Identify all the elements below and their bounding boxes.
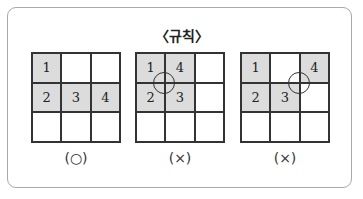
grid-cell	[195, 112, 224, 142]
grid-cell: 4	[300, 53, 329, 83]
grid-cell	[270, 112, 299, 142]
grid-cell	[61, 112, 90, 142]
grid-cell: 4	[91, 83, 120, 113]
grid-cell: 3	[61, 83, 90, 113]
grid-cell	[300, 83, 329, 113]
grid-cell	[195, 53, 224, 83]
grid-cell: 1	[136, 53, 165, 83]
verdict-label-1: (○)	[31, 150, 121, 166]
example-grid-1: 1 2 3 4	[31, 52, 121, 143]
grid-cell: 4	[165, 53, 194, 83]
grid-cell	[165, 112, 194, 142]
verdict-label-3: (×)	[240, 150, 330, 166]
grid-cell: 3	[165, 83, 194, 113]
example-grid-3: 1 4 2 3	[240, 52, 330, 143]
grid-cell	[195, 83, 224, 113]
grid-cell	[32, 112, 61, 142]
example-grid-2: 1 4 2 3	[135, 52, 225, 143]
grid-cell	[270, 53, 299, 83]
grid-cell: 1	[241, 53, 270, 83]
grid-cell: 2	[241, 83, 270, 113]
verdict-label-2: (×)	[135, 150, 225, 166]
grid-cell	[300, 112, 329, 142]
grid-cell: 2	[32, 83, 61, 113]
grid-cell	[91, 53, 120, 83]
grid-cell	[241, 112, 270, 142]
rule-title: 〈규칙〉	[0, 25, 363, 45]
grid-cell	[136, 112, 165, 142]
grid-cell: 3	[270, 83, 299, 113]
grid-cell	[61, 53, 90, 83]
grid-cell	[91, 112, 120, 142]
grid-cell: 2	[136, 83, 165, 113]
grid-cell: 1	[32, 53, 61, 83]
